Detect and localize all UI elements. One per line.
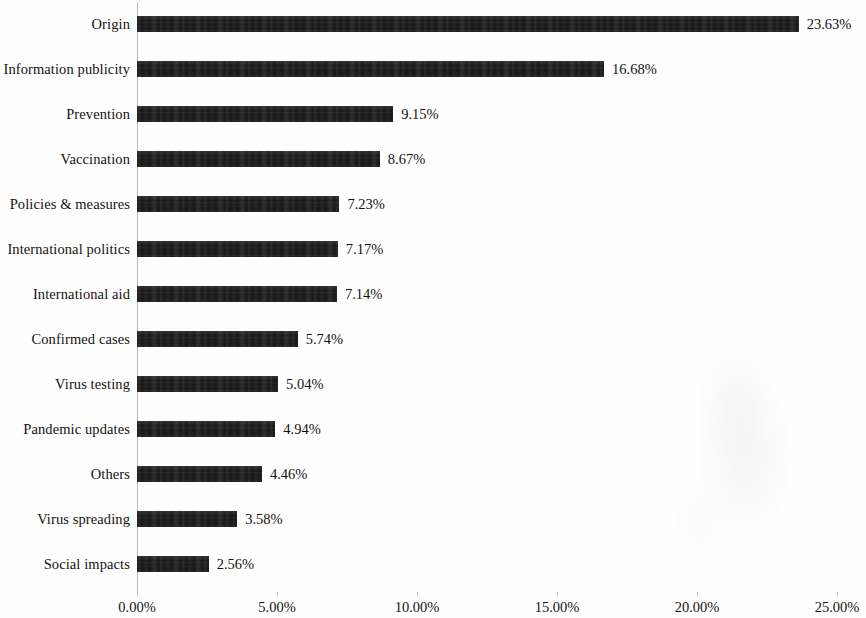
bar[interactable] bbox=[137, 511, 237, 527]
bar-container bbox=[137, 421, 275, 437]
category-label: Origin bbox=[92, 15, 130, 32]
category-label: Virus spreading bbox=[37, 510, 130, 527]
bar[interactable] bbox=[137, 61, 604, 77]
bar-row: Policies & measures7.23% bbox=[0, 181, 866, 226]
bar-container bbox=[137, 556, 209, 572]
x-axis-tick bbox=[277, 592, 278, 597]
x-axis-tick-label: 10.00% bbox=[395, 599, 440, 616]
bar-row: Others4.46% bbox=[0, 451, 866, 496]
x-axis: 0.00%5.00%10.00%15.00%20.00%25.00% bbox=[0, 592, 866, 618]
bar-row: Pandemic updates4.94% bbox=[0, 406, 866, 451]
bar[interactable] bbox=[137, 106, 393, 122]
bar-container bbox=[137, 331, 298, 347]
bar-container bbox=[137, 61, 604, 77]
x-axis-tick-label: 20.00% bbox=[675, 599, 720, 616]
category-label: Social impacts bbox=[44, 555, 130, 572]
bar-value-label: 3.58% bbox=[245, 510, 282, 527]
category-label: Prevention bbox=[66, 105, 130, 122]
bar-container bbox=[137, 466, 262, 482]
category-label: Virus testing bbox=[55, 375, 130, 392]
x-axis-tick-label: 5.00% bbox=[258, 599, 295, 616]
plot-area: Origin23.63%Information publicity16.68%P… bbox=[0, 0, 866, 618]
bar[interactable] bbox=[137, 16, 799, 32]
category-label: International aid bbox=[33, 285, 130, 302]
bar-value-label: 4.94% bbox=[283, 420, 320, 437]
bar-row: International politics7.17% bbox=[0, 226, 866, 271]
bar-container bbox=[137, 16, 799, 32]
bar[interactable] bbox=[137, 466, 262, 482]
bar-value-label: 23.63% bbox=[807, 15, 852, 32]
bar-value-label: 9.15% bbox=[401, 105, 438, 122]
category-label: Others bbox=[91, 465, 130, 482]
bar-value-label: 7.17% bbox=[346, 240, 383, 257]
bar-value-label: 7.23% bbox=[347, 195, 384, 212]
bar[interactable] bbox=[137, 376, 278, 392]
bar[interactable] bbox=[137, 556, 209, 572]
bar-value-label: 7.14% bbox=[345, 285, 382, 302]
bar-container bbox=[137, 106, 393, 122]
category-label: Pandemic updates bbox=[23, 420, 130, 437]
bar-container bbox=[137, 196, 339, 212]
x-axis-tick bbox=[557, 592, 558, 597]
bar-row: Information publicity16.68% bbox=[0, 46, 866, 91]
bar[interactable] bbox=[137, 421, 275, 437]
bar-value-label: 16.68% bbox=[612, 60, 657, 77]
bar-value-label: 4.46% bbox=[270, 465, 307, 482]
x-axis-tick-label: 25.00% bbox=[815, 599, 860, 616]
x-axis-tick bbox=[697, 592, 698, 597]
x-axis-tick-label: 15.00% bbox=[535, 599, 580, 616]
bar-value-label: 2.56% bbox=[217, 555, 254, 572]
bar-row: Virus testing5.04% bbox=[0, 361, 866, 406]
bar-row: Vaccination8.67% bbox=[0, 136, 866, 181]
bar-container bbox=[137, 286, 337, 302]
bar-row: Virus spreading3.58% bbox=[0, 496, 866, 541]
bar[interactable] bbox=[137, 196, 339, 212]
bar-row: Confirmed cases5.74% bbox=[0, 316, 866, 361]
bar-container bbox=[137, 511, 237, 527]
category-label: Confirmed cases bbox=[31, 330, 130, 347]
category-label: International politics bbox=[7, 240, 130, 257]
bar-value-label: 5.04% bbox=[286, 375, 323, 392]
bar-row: Origin23.63% bbox=[0, 1, 866, 46]
bar-value-label: 8.67% bbox=[388, 150, 425, 167]
bar-container bbox=[137, 376, 278, 392]
bar-row: Social impacts2.56% bbox=[0, 541, 866, 586]
bar[interactable] bbox=[137, 331, 298, 347]
x-axis-tick-label: 0.00% bbox=[118, 599, 155, 616]
bar-container bbox=[137, 241, 338, 257]
bar[interactable] bbox=[137, 151, 380, 167]
x-axis-tick bbox=[137, 592, 138, 597]
bar-value-label: 5.74% bbox=[306, 330, 343, 347]
bar-container bbox=[137, 151, 380, 167]
x-axis-tick bbox=[417, 592, 418, 597]
category-label: Policies & measures bbox=[10, 195, 130, 212]
bar[interactable] bbox=[137, 241, 338, 257]
bar-chart: Origin23.63%Information publicity16.68%P… bbox=[0, 0, 866, 618]
category-label: Information publicity bbox=[3, 60, 130, 77]
x-axis-tick bbox=[837, 592, 838, 597]
bar[interactable] bbox=[137, 286, 337, 302]
bar-row: Prevention9.15% bbox=[0, 91, 866, 136]
bar-row: International aid7.14% bbox=[0, 271, 866, 316]
category-label: Vaccination bbox=[60, 150, 130, 167]
